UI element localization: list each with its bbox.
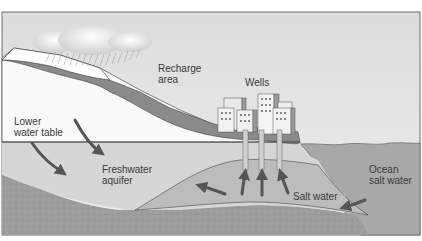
ocean-salt-water-label: Ocean salt water	[369, 164, 412, 186]
well-pipe-2	[259, 130, 264, 170]
salt-water-label: Salt water	[293, 191, 337, 202]
freshwater-aquifer-label: Freshwater aquifer	[102, 164, 152, 186]
saltwater-intrusion-diagram	[0, 0, 422, 241]
well-pipe-1	[243, 130, 248, 170]
recharge-area-label: Recharge area	[158, 63, 201, 85]
lower-water-table-label: Lower water table	[14, 116, 63, 138]
well-pipe-3	[277, 130, 282, 170]
wells-label: Wells	[245, 77, 269, 88]
